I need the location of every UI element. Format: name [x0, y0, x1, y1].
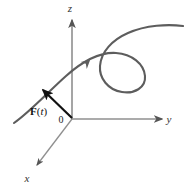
x-axis-line — [37, 119, 72, 165]
origin-label: 0 — [59, 114, 64, 125]
force-vector-label-close-paren: ) — [43, 105, 47, 118]
z-axis-label: z — [67, 2, 73, 14]
x-axis-label: x — [24, 172, 30, 184]
y-axis-label: y — [166, 113, 172, 125]
force-vector-label: F(t) — [30, 105, 47, 118]
vector-field-figure: z y x F(t) 0 — [0, 0, 187, 189]
force-vector-arrow — [43, 90, 72, 118]
figure-canvas: z y x F(t) 0 — [0, 0, 187, 189]
